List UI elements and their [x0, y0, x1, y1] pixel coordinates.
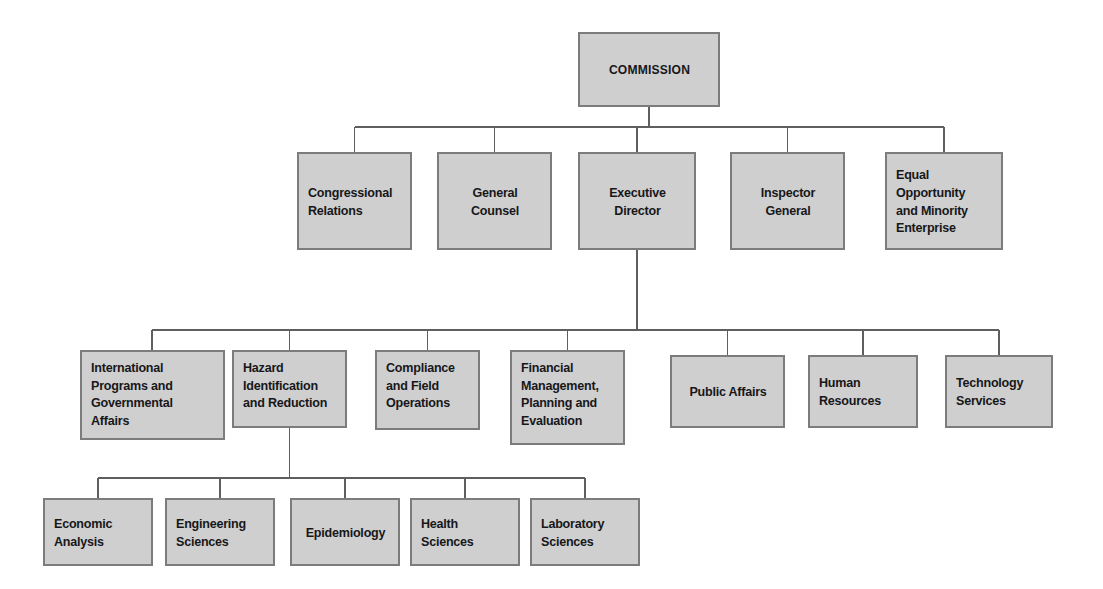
node-compliance-field-operations[interactable]: Compliance and Field Operations — [375, 350, 480, 430]
node-compliance-field-operations-label: Compliance and Field Operations — [386, 359, 464, 412]
node-equal-opportunity-label: Equal Opportunity and Minority Enterpris… — [896, 166, 986, 236]
node-engineering-sciences-label: Engineering Sciences — [176, 515, 259, 550]
node-human-resources[interactable]: Human Resources — [808, 355, 918, 428]
node-laboratory-sciences[interactable]: Laboratory Sciences — [530, 498, 640, 566]
node-equal-opportunity[interactable]: Equal Opportunity and Minority Enterpris… — [885, 152, 1003, 250]
node-technology-services[interactable]: Technology Services — [945, 355, 1053, 428]
node-general-counsel[interactable]: General Counsel — [437, 152, 552, 250]
node-epidemiology[interactable]: Epidemiology — [290, 498, 400, 566]
node-health-sciences-label: Health Sciences — [421, 515, 504, 550]
node-executive-director[interactable]: Executive Director — [578, 152, 696, 250]
node-hazard-identification[interactable]: Hazard Identification and Reduction — [232, 350, 347, 428]
node-epidemiology-label: Epidemiology — [304, 524, 387, 542]
organization-chart: COMMISSION Congressional Relations Gener… — [0, 0, 1103, 589]
node-financial-management[interactable]: Financial Management, Planning and Evalu… — [510, 350, 625, 445]
node-hazard-identification-label: Hazard Identification and Reduction — [243, 359, 330, 412]
node-human-resources-label: Human Resources — [819, 374, 902, 409]
node-executive-director-label: Executive Director — [592, 184, 682, 219]
node-health-sciences[interactable]: Health Sciences — [410, 498, 520, 566]
node-commission-label: COMMISSION — [593, 62, 706, 79]
node-engineering-sciences[interactable]: Engineering Sciences — [165, 498, 275, 566]
node-financial-management-label: Financial Management, Planning and Evalu… — [521, 359, 608, 429]
node-laboratory-sciences-label: Laboratory Sciences — [541, 515, 624, 550]
node-technology-services-label: Technology Services — [956, 374, 1037, 409]
node-international-programs-label: International Programs and Governmental … — [91, 359, 206, 429]
node-public-affairs[interactable]: Public Affairs — [670, 355, 785, 428]
node-general-counsel-label: General Counsel — [451, 184, 538, 219]
node-economic-analysis[interactable]: Economic Analysis — [43, 498, 153, 566]
node-international-programs[interactable]: International Programs and Governmental … — [80, 350, 225, 440]
node-public-affairs-label: Public Affairs — [684, 383, 771, 401]
node-commission[interactable]: COMMISSION — [578, 32, 720, 107]
node-congressional-relations[interactable]: Congressional Relations — [297, 152, 412, 250]
node-inspector-general-label: Inspector General — [744, 184, 831, 219]
node-congressional-relations-label: Congressional Relations — [308, 184, 395, 219]
node-economic-analysis-label: Economic Analysis — [54, 515, 137, 550]
node-inspector-general[interactable]: Inspector General — [730, 152, 845, 250]
